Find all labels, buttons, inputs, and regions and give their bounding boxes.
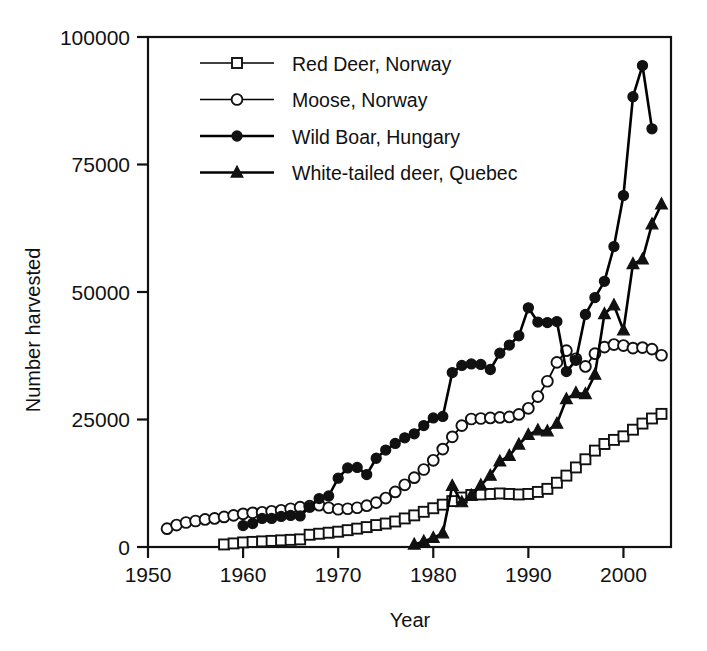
- data-point-marker: [533, 487, 543, 497]
- chart-legend: Red Deer, NorwayMoose, NorwayWild Boar, …: [200, 53, 518, 185]
- data-point-marker: [533, 317, 543, 327]
- data-point-marker: [418, 464, 429, 475]
- legend-label: White-tailed deer, Quebec: [292, 162, 518, 184]
- y-axis-title: Number harvested: [22, 248, 44, 413]
- data-point-marker: [333, 527, 343, 537]
- legend-item: Red Deer, Norway: [200, 53, 452, 75]
- data-point-marker: [400, 433, 410, 443]
- data-point-marker: [267, 536, 277, 546]
- data-point-marker: [551, 417, 563, 428]
- x-axis-title: Year: [390, 609, 431, 631]
- y-tick-label: 0: [118, 536, 130, 559]
- data-point-marker: [552, 478, 562, 488]
- data-point-marker: [286, 535, 296, 545]
- data-point-marker: [637, 253, 649, 264]
- data-point-marker: [504, 489, 514, 499]
- data-point-marker: [618, 324, 630, 335]
- data-point-marker: [438, 500, 448, 510]
- data-point-marker: [437, 444, 448, 455]
- data-point-marker: [646, 218, 658, 229]
- data-point-marker: [409, 510, 419, 520]
- data-point-marker: [656, 350, 667, 361]
- data-point-marker: [618, 191, 628, 201]
- data-point-marker: [514, 489, 524, 499]
- data-point-marker: [362, 522, 372, 532]
- x-tick-label: 1950: [125, 563, 172, 586]
- data-point-marker: [561, 471, 571, 481]
- data-point-marker: [580, 361, 591, 372]
- data-point-marker: [552, 317, 562, 327]
- x-axis: 195019601970198019902000: [125, 547, 647, 586]
- data-point-marker: [229, 538, 239, 548]
- data-point-marker: [419, 421, 429, 431]
- data-point-marker: [571, 355, 581, 365]
- data-point-marker: [238, 537, 248, 547]
- data-point-marker: [238, 521, 248, 531]
- data-point-marker: [437, 527, 449, 538]
- data-point-marker: [542, 484, 552, 494]
- legend-item: Moose, Norway: [200, 89, 428, 111]
- y-axis: 0250005000075000100000: [60, 26, 148, 559]
- data-point-marker: [476, 489, 486, 499]
- data-point-marker: [267, 513, 277, 523]
- data-point-marker: [314, 494, 324, 504]
- data-point-marker: [305, 502, 315, 512]
- data-point-marker: [457, 360, 467, 370]
- x-tick-label: 1970: [315, 563, 362, 586]
- data-point-marker: [590, 293, 600, 303]
- data-point-marker: [343, 525, 353, 535]
- data-point-marker: [343, 463, 353, 473]
- data-point-marker: [609, 435, 619, 445]
- data-point-marker: [656, 198, 668, 209]
- data-point-marker: [248, 537, 258, 547]
- data-point-marker: [257, 513, 267, 523]
- data-point-marker: [599, 276, 609, 286]
- data-point-marker: [248, 519, 258, 529]
- data-point-marker: [400, 513, 410, 523]
- legend-label: Red Deer, Norway: [292, 53, 452, 75]
- data-point-marker: [409, 472, 420, 483]
- y-tick-label: 50000: [72, 281, 130, 304]
- data-point-marker: [428, 503, 438, 513]
- data-point-marker: [390, 517, 400, 527]
- data-point-marker: [324, 491, 334, 501]
- data-point-marker: [438, 411, 448, 421]
- data-point-marker: [608, 299, 620, 310]
- data-point-marker: [352, 524, 362, 534]
- data-point-marker: [381, 519, 391, 529]
- x-tick-label: 1980: [410, 563, 457, 586]
- data-point-marker: [628, 425, 638, 435]
- data-point-marker: [232, 58, 242, 68]
- data-point-marker: [637, 419, 647, 429]
- data-point-marker: [609, 242, 619, 252]
- data-point-marker: [561, 393, 573, 404]
- data-point-marker: [637, 61, 647, 71]
- x-tick-label: 1990: [505, 563, 552, 586]
- data-point-marker: [399, 479, 410, 490]
- data-point-marker: [219, 539, 229, 549]
- data-point-marker: [523, 403, 534, 414]
- data-point-marker: [276, 535, 286, 545]
- data-point-marker: [495, 348, 505, 358]
- data-point-marker: [523, 489, 533, 499]
- data-point-marker: [314, 529, 324, 539]
- data-point-marker: [371, 453, 381, 463]
- y-tick-label: 75000: [72, 153, 130, 176]
- data-point-marker: [618, 431, 628, 441]
- plot-border: [148, 37, 671, 547]
- data-point-marker: [542, 376, 553, 387]
- data-point-marker: [232, 94, 243, 105]
- data-point-marker: [362, 470, 372, 480]
- data-point-marker: [276, 511, 286, 521]
- line-chart-canvas: 0250005000075000100000 19501960197019801…: [0, 0, 707, 651]
- data-point-marker: [232, 131, 242, 141]
- data-point-marker: [305, 530, 315, 540]
- data-point-marker: [599, 439, 609, 449]
- data-point-marker: [580, 454, 590, 464]
- data-point-marker: [628, 92, 638, 102]
- data-point-marker: [590, 446, 600, 456]
- legend-item: Wild Boar, Hungary: [200, 126, 460, 148]
- y-tick-label: 100000: [60, 26, 130, 49]
- x-tick-label: 1960: [220, 563, 267, 586]
- data-point-marker: [428, 413, 438, 423]
